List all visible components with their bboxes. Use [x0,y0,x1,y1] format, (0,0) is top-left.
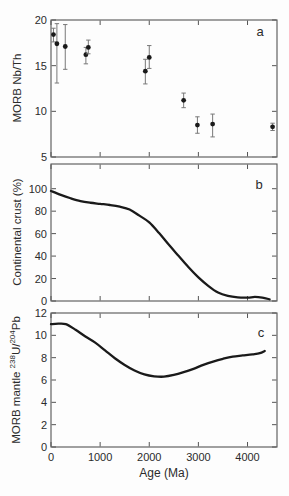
y-axis-label-a: MORB Nb/Th [11,53,23,122]
panel-b-y-tick-label: 40 [35,250,47,262]
panel-label-b: b [255,177,262,192]
panel-c-y-tick-label: 2 [41,419,47,431]
ylabel-c-prefix: MORB mantle [10,368,22,443]
panel-c-frame [51,313,277,447]
y-axis-label-b: Continental crust (%) [11,178,23,285]
panel-c-y-tick-label: 8 [41,352,47,364]
y-axis-label-c: MORB mantle 238U/204Pb [8,316,22,444]
ylabel-c-end: Pb [10,316,22,330]
x-axis-label: Age (Ma) [139,466,188,480]
panel-a-data-point [51,32,56,37]
panel-b-y-tick-label: 80 [35,205,47,217]
ylabel-c-superscript-204: 204 [8,330,17,343]
panel-c-y-tick-label: 10 [35,329,47,341]
panel-c-y-tick-label: 0 [41,441,47,453]
three-panel-figure: 5101520020406080100010002000300040000246… [0,0,289,496]
panel-b-frame [51,164,277,301]
panel-a-data-point [210,122,215,127]
panel-label-c: c [258,325,265,340]
chart-canvas: 5101520020406080100010002000300040000246… [0,0,289,496]
panel-b-y-tick-label: 20 [35,273,47,285]
panel-c-curve [51,324,265,377]
panel-c-x-tick-label: 0 [48,451,54,463]
panel-b-y-tick-label: 60 [35,228,47,240]
panel-a-data-point [270,124,275,129]
panel-a-data-point [63,44,68,49]
panel-a-y-tick-label: 20 [35,14,47,26]
panel-a-y-tick-label: 5 [41,151,47,163]
panel-b-y-tick-label: 100 [29,183,47,195]
panel-a-data-point [143,69,148,74]
panel-c-y-tick-label: 4 [41,396,47,408]
panel-a-y-tick-label: 15 [35,60,47,72]
panel-a-data-point [195,123,200,128]
panel-b-curve [51,191,270,299]
panel-a-data-point [181,98,186,103]
panel-c-x-tick-label: 2000 [137,451,161,463]
ylabel-c-mid: U/ [10,344,22,356]
panel-a-y-tick-label: 10 [35,105,47,117]
panel-a-data-point [86,45,91,50]
panel-c-y-tick-label: 6 [41,374,47,386]
panel-b-y-tick-label: 0 [41,295,47,307]
panel-c-y-tick-label: 12 [35,307,47,319]
panel-a-frame [51,20,277,157]
panel-label-a: a [256,24,263,39]
panel-a-data-point [83,52,88,57]
panel-c-x-tick-label: 3000 [186,451,210,463]
panel-a-data-point [147,55,152,60]
panel-c-x-tick-label: 4000 [235,451,259,463]
panel-c-x-tick-label: 1000 [88,451,112,463]
panel-a-data-point [55,41,60,46]
ylabel-c-superscript-238: 238 [8,355,17,368]
